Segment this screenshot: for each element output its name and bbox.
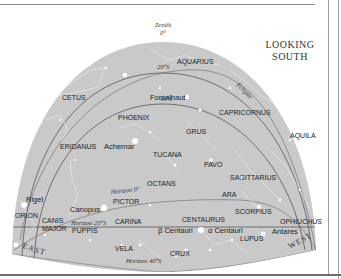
sky-chart: Zenith 0° LOOKING SOUTH 20°S 40°S Eclipt… [0,0,341,279]
star-antares: Antares [272,227,298,236]
horizon-20s-label: Horizon 20°S [70,219,107,226]
constellation-crux: CRUX [170,250,190,257]
constellation-grus: GRUS [186,128,207,135]
constellation-puppis: PUPPIS [72,227,98,234]
constellation-eridanus: ERIDANUS [60,143,97,150]
constellation-major: MAJOR [42,225,67,232]
constellation-pictor: PICTOR [113,198,139,205]
constellation-ara: ARA [222,191,237,198]
constellation-sagittarius: SAGITTARIUS [230,174,276,181]
constellation-centaurus: CENTAURUS [182,216,225,223]
constellation-ophiuchus: OPHIUCHUS [280,218,322,225]
star-beta-centauri: β Centauri [158,226,193,235]
constellation-octans: OCTANS [147,180,176,187]
constellation-aquarius: AQUARIUS [177,58,214,66]
dec-20s-label: 20°S [157,63,170,70]
zenith-label: Zenith [155,21,172,28]
star-rigel: Rigel [26,195,43,204]
title-south: SOUTH [272,51,308,62]
title-looking: LOOKING [265,39,314,50]
star-alpha-centauri: α Centauri [208,226,243,235]
constellation-aquila: AQUILA [290,132,316,140]
constellation-pavo: PAVO [204,161,223,168]
constellation-cetus: CETUS [62,94,86,101]
star-canopus: Canopus [70,205,100,214]
constellation-vela: VELA [115,245,133,252]
constellation-tucana: TUCANA [153,151,182,158]
constellation-capricornus: CAPRICORNUS [219,109,271,116]
constellation-phoenix: PHOENIX [118,114,150,121]
constellation-lupus: LUPUS [240,235,264,242]
zenith-degree: 0° [160,29,166,36]
constellation-scorpius: SCORPIUS [235,208,272,215]
horizon-40s-label: Horizon 40°S [125,257,162,264]
star-achernar: Achernar [104,142,135,151]
star-fomalhaut: Fomalhaut [150,93,186,102]
constellation-canis: CANIS [42,217,64,224]
constellation-orion: ORION [15,212,38,219]
constellation-carina: CARINA [115,218,142,225]
